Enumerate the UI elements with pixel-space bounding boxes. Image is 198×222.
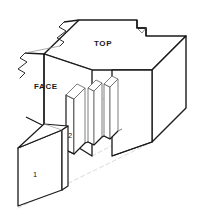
joint-fin-b-side [94,83,102,145]
isometric-joint-illustration [0,0,198,222]
label-part-two: 2 [68,131,73,140]
joint-fin-c-side [110,79,118,139]
joint-fin-b-front [88,88,94,145]
joint-fin-c-front [104,84,110,139]
label-top: TOP [94,39,112,48]
break-line-lower-zigzag [18,53,27,78]
label-face: FACE [34,82,58,91]
label-part-one: 1 [33,170,38,179]
technical-drawing-canvas: TOP FACE 1 2 [0,0,198,222]
